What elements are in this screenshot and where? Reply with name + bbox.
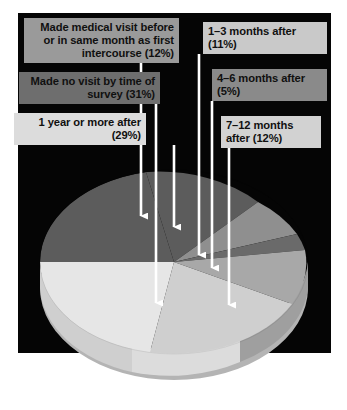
label-no-visit[interactable]: Made no visit by time of survey (31%) [19,72,160,104]
label-text: 7–12 months after (12%) [226,119,293,144]
figure-root: Made medical visit before or in same mon… [0,0,347,410]
label-text: Made no visit by time of survey (31%) [31,75,155,100]
label-1-3-months[interactable]: 1–3 months after (11%) [203,22,327,54]
label-4-6-months[interactable]: 4–6 months after (5%) [212,69,327,101]
label-text: 1 year or more after (29%) [39,116,141,141]
label-1-year-or-more[interactable]: 1 year or more after (29%) [14,113,146,145]
label-text: 4–6 months after (5%) [217,72,305,97]
label-7-12-months[interactable]: 7–12 months after (12%) [221,116,321,148]
label-before-or-same-month[interactable]: Made medical visit before or in same mon… [24,18,179,63]
label-text: Made medical visit before or in same mon… [40,21,174,59]
label-text: 1–3 months after (11%) [208,25,296,50]
